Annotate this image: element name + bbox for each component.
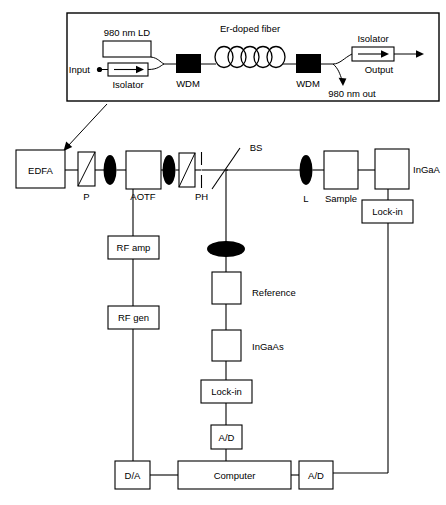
output-label: Output	[365, 64, 394, 75]
reference-lockin-label: Lock-in	[211, 386, 242, 397]
polarizer-analyzer	[179, 153, 195, 187]
sample-lockin-label: Lock-in	[372, 206, 403, 217]
rf-gen-label: RF gen	[118, 312, 149, 323]
lens-1	[104, 155, 117, 185]
sample-detector-label: InGaA	[413, 164, 441, 175]
pump-out-label: 980 nm out	[328, 88, 376, 99]
sample-detection-branch: Lock-in	[362, 189, 413, 473]
sample-box	[324, 151, 358, 189]
da-label: D/A	[125, 470, 142, 481]
er-fiber-label: Er-doped fiber	[220, 23, 280, 34]
wdm-right-label: WDM	[296, 78, 320, 89]
bs-label: BS	[250, 142, 263, 153]
output-isolator-label: Isolator	[357, 33, 388, 44]
pump-laser-box	[103, 41, 151, 57]
reference-branch: Reference InGaAs Lock-in A/D	[201, 170, 296, 461]
reference-ad-label: A/D	[219, 432, 235, 443]
polarizer-p-label: P	[83, 191, 89, 202]
figure-canvas: 980 nm LD Isolator Input WDM	[0, 0, 446, 505]
wdm-right-box	[296, 54, 321, 73]
ad-label: A/D	[308, 470, 324, 481]
reference-box	[212, 272, 241, 304]
reference-detector-label: InGaAs	[252, 341, 284, 352]
lens-3	[300, 155, 313, 185]
edfa-label: EDFA	[28, 165, 53, 176]
reference-detector-box	[212, 330, 241, 361]
main-beam-path: EDFA P AOTF	[16, 142, 441, 204]
computer-label: Computer	[214, 470, 256, 481]
reference-lens	[207, 241, 245, 257]
inset-callout-arrow	[64, 104, 108, 151]
aotf-box	[126, 151, 161, 189]
input-label: Input	[69, 64, 90, 75]
pump-label: 980 nm LD	[104, 27, 151, 38]
input-isolator-label: Isolator	[112, 79, 143, 90]
inset-panel: 980 nm LD Isolator Input WDM	[67, 13, 439, 101]
wdm-left-box	[176, 54, 201, 73]
aotf-label: AOTF	[130, 191, 156, 202]
pinhole-label: PH	[195, 191, 208, 202]
lens-2	[163, 155, 176, 185]
wdm-left-label: WDM	[176, 78, 200, 89]
rf-amp-label: RF amp	[117, 242, 151, 253]
bottom-row: D/A Computer A/D	[115, 461, 388, 489]
polarizer-p	[78, 152, 95, 186]
sample-label: Sample	[325, 193, 357, 204]
reference-label: Reference	[252, 287, 296, 298]
lens-3-label: L	[303, 193, 308, 204]
sample-detector-box	[375, 149, 409, 189]
input-node-dot	[97, 67, 102, 72]
rf-branch: RF amp RF gen	[108, 189, 159, 461]
